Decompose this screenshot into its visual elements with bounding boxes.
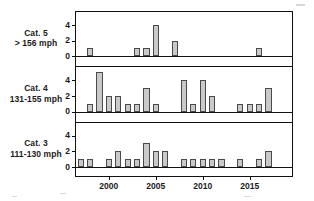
bar-cat4-2002 [125,104,131,112]
ytick-label-cat3-2: 2 [56,147,70,156]
ytick-label-cat5-4: 4 [56,21,70,30]
bar-cat4-2001 [115,96,121,112]
panel-divider-1 [75,122,293,123]
bar-cat4-2004 [143,88,149,112]
xtick-mark-2015 [250,177,251,180]
bar-cat4-2015 [247,104,253,112]
bar-cat3-2014 [237,159,243,167]
bar-cat3-2006 [162,151,168,167]
xtick-label-2010: 2010 [193,181,212,191]
scan-artifact-0 [296,4,305,6]
bar-cat5-2007 [172,41,178,57]
ytick-label-cat4-2: 2 [56,92,70,101]
panel-divider-0 [75,66,293,67]
xtick-label-2005: 2005 [146,181,165,191]
ytick-mark-cat3-4 [72,136,75,137]
bar-cat3-2012 [218,159,224,167]
scan-artifact-3 [244,196,251,197]
ytick-label-cat5-0: 0 [56,52,70,61]
bar-cat3-2011 [209,159,215,167]
ytick-label-cat4-4: 4 [56,76,70,85]
baseline-cat4 [75,112,293,113]
bar-cat3-2004 [143,143,149,167]
bar-cat5-2016 [256,48,262,56]
bar-cat3-2017 [265,151,271,167]
bar-cat3-2002 [125,159,131,167]
bar-cat4-1998 [87,104,93,112]
bar-cat5-2003 [134,48,140,56]
xtick-label-2015: 2015 [240,181,259,191]
baseline-cat3 [75,167,293,168]
bar-cat4-2003 [134,104,140,112]
bar-cat3-1998 [87,159,93,167]
bar-cat3-2009 [190,159,196,167]
bar-cat4-2011 [209,96,215,112]
bar-cat4-2010 [200,80,206,111]
bar-cat3-2008 [181,159,187,167]
bar-cat3-2001 [115,151,121,167]
bar-cat4-2017 [265,88,271,112]
bar-cat4-1999 [96,72,102,111]
ytick-mark-cat5-4 [72,25,75,26]
xtick-mark-2005 [156,177,157,180]
xtick-mark-2010 [203,177,204,180]
ytick-mark-cat4-4 [72,80,75,81]
ytick-label-cat3-0: 0 [56,163,70,172]
scan-artifact-2 [12,196,17,197]
bar-cat3-2010 [200,159,206,167]
ytick-mark-cat5-2 [72,41,75,42]
ytick-mark-cat4-2 [72,96,75,97]
baseline-cat5 [75,56,293,57]
hurricane-category-panel-chart: Cat. 5> 156 mph024Cat. 4131-155 mph024Ca… [0,0,314,201]
xtick-mark-2000 [109,177,110,180]
bar-cat4-2016 [256,104,262,112]
bar-cat3-2016 [256,159,262,167]
bar-cat4-2014 [237,104,243,112]
bar-cat4-2005 [153,104,159,112]
ytick-mark-cat3-2 [72,151,75,152]
bar-cat3-2003 [134,159,140,167]
bar-cat5-2004 [143,48,149,56]
bar-cat3-2005 [153,151,159,167]
bar-cat4-2008 [181,80,187,111]
xtick-label-2000: 2000 [99,181,118,191]
bar-cat4-2009 [190,104,196,112]
bar-cat3-1997 [78,159,84,167]
bar-cat3-2000 [106,159,112,167]
bar-cat4-2000 [106,96,112,112]
ytick-label-cat4-0: 0 [56,107,70,116]
ytick-label-cat5-2: 2 [56,36,70,45]
ytick-label-cat3-4: 4 [56,131,70,140]
bar-cat5-1998 [87,48,93,56]
bar-cat5-2005 [153,25,159,56]
scan-artifact-1 [60,193,66,194]
